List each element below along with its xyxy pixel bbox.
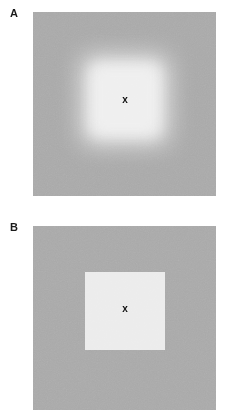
panel-a: A x	[0, 0, 234, 210]
panel-a-stimulus-field: x	[33, 12, 216, 196]
panel-b-fixation-marker: x	[119, 304, 131, 314]
figure-canvas: A x B	[0, 0, 234, 420]
panel-b: B x	[0, 210, 234, 420]
panel-b-stimulus-field: x	[33, 226, 216, 410]
panel-b-letter: B	[10, 222, 18, 233]
panel-a-fixation-marker: x	[119, 95, 131, 105]
panel-a-letter: A	[10, 8, 18, 19]
